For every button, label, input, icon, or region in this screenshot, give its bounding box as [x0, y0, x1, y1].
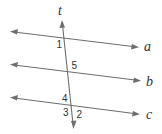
arrowhead-left-icon — [10, 62, 18, 68]
line-label-b: b — [146, 74, 153, 89]
parallel-lines-diagram: a b c t 1 5 4 3 2 — [0, 0, 162, 134]
line-label-t: t — [58, 3, 63, 18]
arrowhead-down-icon — [71, 121, 77, 130]
line-label-c: c — [146, 107, 153, 122]
arrowhead-left-icon — [10, 29, 18, 35]
angle-label-2: 2 — [77, 109, 83, 120]
angle-label-5: 5 — [72, 60, 78, 71]
arrowhead-right-icon — [131, 44, 139, 50]
angle-label-1: 1 — [57, 39, 63, 50]
arrowhead-up-icon — [60, 20, 66, 28]
line-b: b — [10, 62, 153, 89]
arrowhead-right-icon — [132, 111, 140, 117]
angle-label-3: 3 — [63, 107, 69, 118]
arrowhead-right-icon — [133, 78, 141, 84]
line-a: a — [10, 29, 151, 54]
arrowhead-left-icon — [10, 95, 18, 101]
line-label-a: a — [144, 39, 151, 54]
angle-label-4: 4 — [62, 93, 68, 104]
